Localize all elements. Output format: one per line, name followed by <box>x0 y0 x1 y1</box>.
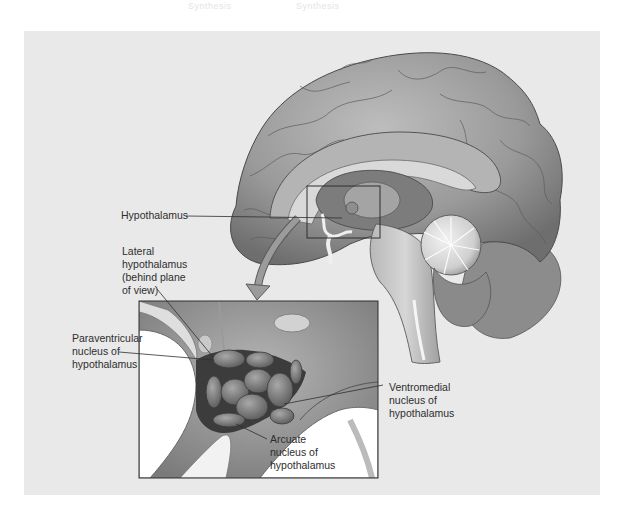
label-lateral-hypothalamus: Lateral hypothalamus (behind plane of vi… <box>122 245 187 297</box>
hypothalamus-inset <box>139 301 378 478</box>
label-ventromedial-nucleus: Ventromedial nucleus of hypothalamus <box>389 381 454 420</box>
label-paraventricular-nucleus: Paraventricular nucleus of hypothalamus <box>72 332 143 371</box>
label-hypothalamus: Hypothalamus <box>121 209 188 222</box>
label-arcuate-nucleus: Arcuate nucleus of hypothalamus <box>270 433 335 472</box>
